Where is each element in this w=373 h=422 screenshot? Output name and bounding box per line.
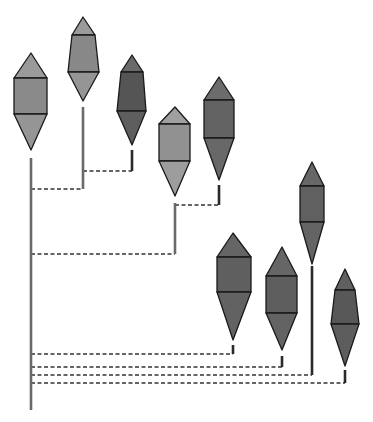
dendrogram-canvas [0,0,373,422]
node-3-point [117,111,146,145]
node-2-cap [72,17,95,35]
node-5-point [204,138,234,180]
node-3-body [117,72,146,111]
node-5 [204,77,234,180]
crystal-nodes [14,17,359,366]
node-8-body [300,186,324,222]
node-4-point [159,161,190,196]
node-2 [68,17,99,101]
node-9-body [331,290,359,324]
node-7-cap [266,247,297,276]
node-8-cap [300,162,324,186]
node-6-point [217,292,251,340]
node-4-body [159,124,190,161]
node-9-point [331,324,359,366]
node-7-body [266,276,297,313]
node-2-body [68,35,99,72]
node-5-body [204,100,234,138]
node-7 [266,247,297,350]
node-8-point [300,222,324,264]
branch-lines [31,171,345,383]
node-4 [159,107,190,196]
node-6-body [217,257,251,292]
node-3-cap [121,55,143,72]
node-5-cap [204,77,234,100]
node-6 [217,233,251,340]
node-1-point [14,114,47,150]
node-8 [300,162,324,264]
node-3 [117,55,146,145]
node-6-cap [217,233,251,257]
node-9 [331,269,359,366]
node-1 [14,53,47,150]
node-4-cap [159,107,190,124]
node-2-point [68,72,99,101]
node-1-cap [14,53,47,78]
node-1-body [14,78,47,114]
node-9-cap [335,269,355,290]
node-7-point [266,313,297,350]
